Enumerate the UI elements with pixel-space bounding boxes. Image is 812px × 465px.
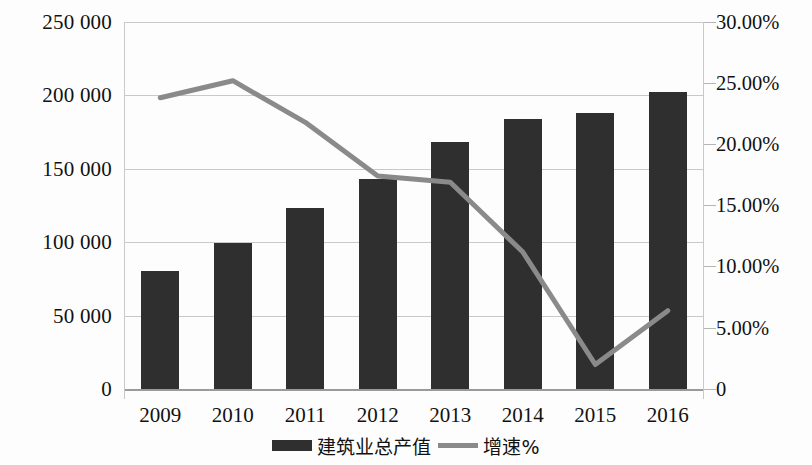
legend-bar-swatch-icon: [272, 440, 312, 451]
right-axis-tick-0: 0: [716, 379, 808, 399]
legend-label-bar: 建筑业总产值: [317, 432, 431, 459]
right-tickmark-0: [704, 389, 716, 390]
right-tickmark-30: [704, 22, 716, 23]
legend-line-swatch-icon: [438, 443, 478, 448]
x-axis-tick-2016: 2016: [632, 402, 705, 428]
right-tickmark-5: [704, 328, 716, 329]
x-axis-tick-2014: 2014: [487, 402, 560, 428]
left-axis-tick-100000: 100 000: [0, 232, 112, 253]
right-axis-tick-30: 30.00%: [716, 12, 808, 32]
plot-area: [124, 22, 704, 399]
right-tickmark-15: [704, 205, 716, 206]
x-axis-tick-2013: 2013: [414, 402, 487, 428]
legend-item-bar: 建筑业总产值: [272, 432, 431, 459]
x-axis-tick-2011: 2011: [269, 402, 342, 428]
legend-label-line: 增速%: [483, 432, 539, 459]
right-axis-tick-10: 10.00%: [716, 256, 808, 276]
legend-item-line: 增速%: [438, 432, 539, 459]
right-axis-tick-5: 5.00%: [716, 318, 808, 338]
x-axis-tick-2010: 2010: [197, 402, 270, 428]
left-axis-tick-250000: 250 000: [0, 12, 112, 33]
growth-rate-line: [124, 22, 704, 399]
x-axis-tick-2012: 2012: [342, 402, 415, 428]
left-axis-tick-200000: 200 000: [0, 85, 112, 106]
x-axis-tick-2009: 2009: [124, 402, 197, 428]
chart-container: 250 000 200 000 150 000 100 000 50 000 0…: [0, 0, 812, 465]
right-tickmark-20: [704, 144, 716, 145]
right-axis-tick-20: 20.00%: [716, 134, 808, 154]
right-tickmark-25: [704, 83, 716, 84]
right-axis-tick-25: 25.00%: [716, 73, 808, 93]
left-axis-tick-150000: 150 000: [0, 159, 112, 180]
x-axis-labels: 20092010201120122013201420152016: [124, 402, 704, 430]
right-tickmark-10: [704, 266, 716, 267]
right-axis-tick-15: 15.00%: [716, 195, 808, 215]
left-axis-tick-50000: 50 000: [0, 306, 112, 327]
chart-legend: 建筑业总产值 增速%: [0, 432, 812, 459]
left-axis-tick-0: 0: [0, 379, 112, 400]
x-axis-tick-2015: 2015: [559, 402, 632, 428]
